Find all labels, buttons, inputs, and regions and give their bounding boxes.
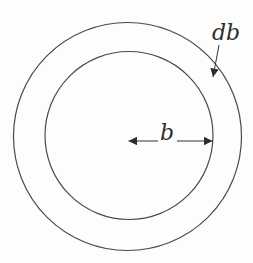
outer-circle: [14, 23, 242, 251]
annulus-diagram: b db: [0, 0, 253, 263]
inner-circle: [45, 52, 213, 220]
ring-thickness-arrow: [213, 45, 219, 77]
ring-thickness-label: db: [212, 20, 240, 45]
radius-label: b: [160, 120, 174, 145]
diagram-svg: b db: [0, 0, 253, 263]
